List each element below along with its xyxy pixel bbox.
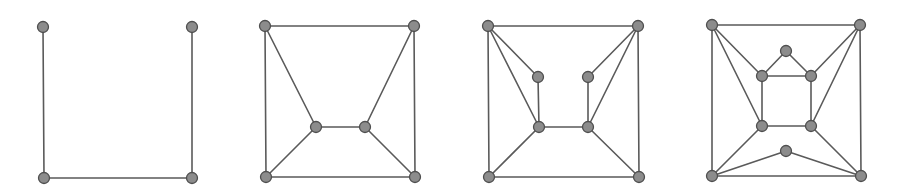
graph-node bbox=[781, 146, 792, 157]
graph-node bbox=[261, 172, 272, 183]
graph-edge bbox=[786, 151, 861, 176]
graph-node bbox=[409, 21, 420, 32]
graph-node bbox=[634, 172, 645, 183]
graph-node bbox=[39, 173, 50, 184]
graph-node bbox=[410, 172, 421, 183]
graph-edge bbox=[365, 127, 415, 177]
graph-edge bbox=[712, 126, 762, 176]
graph-edge bbox=[588, 26, 638, 127]
graph-edge bbox=[588, 127, 639, 177]
graph-edge bbox=[712, 25, 762, 76]
graph-edge bbox=[588, 26, 638, 77]
graph-edge bbox=[811, 25, 860, 76]
graph-node bbox=[38, 22, 49, 33]
graph-node bbox=[260, 21, 271, 32]
graph-node bbox=[806, 121, 817, 132]
graph-node bbox=[781, 46, 792, 57]
graph-edge bbox=[488, 26, 489, 177]
graph-node bbox=[707, 171, 718, 182]
graph-node bbox=[187, 173, 198, 184]
graph-node bbox=[534, 122, 545, 133]
graph-panels bbox=[38, 20, 867, 184]
graph-edge bbox=[265, 26, 266, 177]
graph-edge bbox=[538, 77, 539, 127]
graph-edge bbox=[712, 25, 762, 126]
graph-node bbox=[757, 121, 768, 132]
graph-node bbox=[757, 71, 768, 82]
graph-node bbox=[583, 72, 594, 83]
graph-edge bbox=[266, 127, 316, 177]
graph-2 bbox=[260, 21, 421, 183]
graph-edge bbox=[488, 26, 539, 127]
graph-node bbox=[311, 122, 322, 133]
graph-node bbox=[707, 20, 718, 31]
graph-edge bbox=[43, 27, 44, 178]
graph-node bbox=[806, 71, 817, 82]
graph-edge bbox=[712, 151, 786, 176]
graph-node bbox=[533, 72, 544, 83]
graph-sequence-diagram bbox=[0, 0, 900, 192]
graph-4 bbox=[707, 20, 867, 182]
graph-node bbox=[633, 21, 644, 32]
graph-node bbox=[583, 122, 594, 133]
graph-node bbox=[360, 122, 371, 133]
graph-3 bbox=[483, 21, 645, 183]
graph-edge bbox=[265, 26, 316, 127]
graph-edge bbox=[811, 25, 860, 126]
graph-1 bbox=[38, 22, 198, 184]
graph-node bbox=[187, 22, 198, 33]
graph-edge bbox=[638, 26, 639, 177]
graph-node bbox=[484, 172, 495, 183]
graph-edge bbox=[365, 26, 414, 127]
graph-edge bbox=[414, 26, 415, 177]
graph-edge bbox=[860, 25, 861, 176]
graph-edge bbox=[489, 127, 539, 177]
graph-edge bbox=[488, 26, 538, 77]
graph-node bbox=[856, 171, 867, 182]
graph-node bbox=[855, 20, 866, 31]
graph-node bbox=[483, 21, 494, 32]
